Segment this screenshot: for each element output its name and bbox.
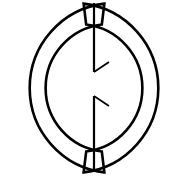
figure-canvas [0,0,187,178]
split-ring-drawing [0,0,187,178]
